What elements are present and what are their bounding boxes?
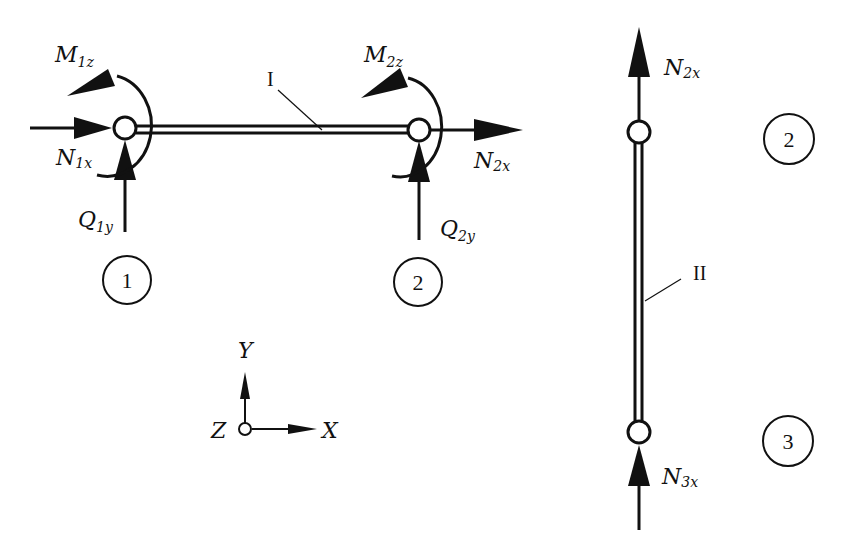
node-2-forces	[361, 68, 523, 240]
n1x-symbol: N	[55, 145, 76, 170]
diagram-canvas: I M1z N1x Q1y	[0, 0, 852, 550]
svg-text:N1x: N1x	[55, 145, 92, 171]
svg-text:Q1y: Q1y	[78, 207, 114, 235]
y-axis-arrowhead-icon	[240, 372, 250, 399]
arrowhead-n2x-icon	[474, 119, 523, 141]
arrowhead-m1z-icon	[67, 69, 115, 96]
coordinate-axes: Y X Z	[210, 338, 339, 443]
q2y-subscript: 2y	[457, 228, 476, 244]
z-axis-label: Z	[210, 418, 227, 443]
x-axis-arrowhead-icon	[288, 424, 317, 434]
node-marker-3-text: 3	[783, 429, 794, 454]
n2x-symbol: N	[473, 148, 494, 173]
svg-text:Q2y: Q2y	[440, 216, 476, 244]
element-i-label: I	[267, 68, 322, 130]
node-marker-2-right: 2	[764, 114, 814, 164]
element-ii-top-node: N2x	[628, 27, 700, 143]
svg-text:M1z: M1z	[54, 42, 94, 70]
element-ii-bottom-node: N3x	[628, 421, 698, 530]
z-axis-origin-icon	[239, 423, 251, 435]
svg-text:M2z: M2z	[363, 42, 403, 70]
q1y-symbol: Q	[78, 207, 96, 232]
node-marker-2: 2	[394, 258, 442, 306]
element-i-beam	[136, 126, 408, 133]
q1y-subscript: 1y	[96, 219, 114, 235]
node-3-joint	[628, 421, 650, 443]
svg-text:N3x: N3x	[661, 464, 698, 490]
svg-text:N2x: N2x	[663, 55, 700, 81]
arrowhead-n2x-vertical-icon	[628, 27, 650, 77]
node-2-top-joint	[628, 121, 650, 143]
node-marker-3: 3	[763, 416, 813, 466]
node-2-joint	[408, 119, 430, 141]
arrowhead-n3x-icon	[628, 445, 650, 486]
x-axis-label: X	[320, 418, 339, 443]
arrowhead-n1x-icon	[74, 117, 112, 139]
n2x-vertical-symbol: N	[663, 55, 684, 80]
element-ii-text: II	[693, 262, 706, 284]
m1z-symbol: M	[54, 42, 78, 67]
svg-text:N2x: N2x	[473, 148, 510, 174]
q2y-symbol: Q	[440, 216, 458, 241]
element-ii-column	[635, 142, 642, 421]
m1z-subscript: 1z	[78, 54, 95, 70]
node-marker-1: 1	[103, 256, 151, 304]
n1x-subscript: 1x	[75, 155, 92, 171]
m2z-subscript: 2z	[386, 54, 404, 70]
n2x-vertical-subscript: 2x	[682, 65, 700, 81]
element-ii-label: II	[645, 262, 706, 301]
element-i-text: I	[267, 68, 274, 90]
m2z-symbol: M	[363, 42, 387, 67]
n3x-symbol: N	[661, 464, 682, 489]
arrowhead-m2z-icon	[361, 68, 408, 98]
node-2-labels: M2z N2x Q2y	[363, 42, 510, 244]
node-marker-2-text: 2	[413, 270, 424, 295]
n3x-subscript: 3x	[681, 474, 698, 490]
node-marker-2-right-text: 2	[784, 127, 795, 152]
node-1-labels: M1z N1x Q1y	[54, 42, 114, 235]
n2x-subscript: 2x	[492, 158, 510, 174]
y-axis-label: Y	[238, 338, 255, 363]
node-marker-1-text: 1	[122, 268, 133, 293]
node-1-joint	[114, 117, 136, 139]
